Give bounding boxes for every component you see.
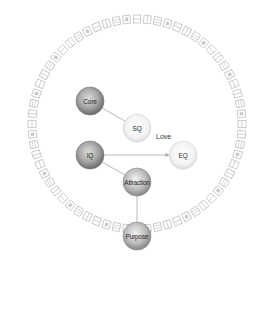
- ring-glyph: [198, 200, 209, 211]
- ring-glyph: [190, 206, 200, 217]
- ring-glyph: [213, 52, 224, 63]
- edge-iq-attraction: [102, 162, 125, 175]
- ring-glyph: [39, 69, 49, 79]
- ring-glyph: [198, 37, 209, 48]
- ring-glyph: [32, 150, 42, 159]
- diagram-canvas: Love CoreSQIQEQAttractionPurpose: [0, 0, 263, 323]
- node-label: SQ: [133, 125, 142, 133]
- ring-glyph: [112, 222, 121, 231]
- ring-glyph: [50, 185, 61, 196]
- node-iq[interactable]: IQ: [76, 141, 104, 170]
- ring-glyph: [92, 22, 102, 32]
- node-label: IQ: [87, 152, 94, 160]
- ring-glyph: [35, 79, 45, 89]
- ring-glyph: [102, 19, 111, 29]
- ring-glyph: [181, 211, 191, 221]
- ring-glyph: [28, 130, 37, 138]
- ring-glyph: [143, 15, 151, 24]
- ring-glyph: [233, 89, 243, 98]
- ring-glyph: [163, 220, 172, 230]
- ring-glyph: [57, 44, 68, 55]
- node-purpose[interactable]: Purpose: [123, 222, 151, 251]
- ring-glyph: [229, 79, 239, 89]
- ring-glyph: [163, 19, 172, 29]
- node-attraction[interactable]: Attraction: [123, 168, 151, 197]
- ring-glyph: [82, 211, 92, 221]
- ring-glyph: [44, 60, 55, 70]
- ring-glyph: [35, 159, 45, 169]
- ring-glyph: [235, 99, 244, 108]
- ring-glyph: [190, 31, 200, 42]
- ring-glyph: [172, 22, 182, 32]
- ring-glyph: [213, 185, 224, 196]
- ring-glyph: [181, 26, 191, 36]
- ring-glyph: [65, 37, 76, 48]
- ring-glyph: [219, 177, 230, 187]
- ring-glyph: [224, 69, 234, 79]
- ring-glyph: [32, 89, 42, 98]
- ring-glyph: [112, 16, 121, 25]
- ring-glyph: [206, 44, 217, 55]
- ring-glyph: [238, 120, 246, 127]
- ring-glyph: [237, 110, 246, 118]
- ring-glyph: [172, 216, 182, 226]
- edge-core-sq: [102, 108, 125, 121]
- concept-diagram: Love CoreSQIQEQAttractionPurpose: [0, 0, 263, 323]
- ring-glyph: [133, 15, 140, 23]
- ring-glyph: [28, 110, 37, 118]
- ring-glyph: [39, 168, 49, 178]
- ring-glyph: [73, 206, 83, 217]
- ring-glyph: [237, 130, 246, 138]
- ring-glyph: [50, 52, 61, 63]
- ring-glyph: [44, 177, 55, 187]
- ring-glyph: [229, 159, 239, 169]
- ring-glyph: [233, 150, 243, 159]
- node-eq[interactable]: EQ: [169, 141, 197, 170]
- ring-glyph: [235, 140, 244, 149]
- ring-glyph: [29, 99, 38, 108]
- ring-glyph: [57, 193, 68, 204]
- ring-glyph: [73, 31, 83, 42]
- ring-glyph: [92, 216, 102, 226]
- nodes: CoreSQIQEQAttractionPurpose: [76, 87, 197, 251]
- ring-glyph: [153, 222, 162, 231]
- node-core[interactable]: Core: [76, 87, 104, 116]
- ring-glyph: [29, 140, 38, 149]
- ring-glyph: [102, 220, 111, 230]
- ring-glyph: [28, 120, 36, 127]
- node-label: Attraction: [124, 179, 150, 186]
- node-label: Core: [83, 98, 97, 105]
- node-label: Purpose: [126, 233, 149, 241]
- ring-glyph: [219, 60, 230, 70]
- ring-glyph: [123, 15, 131, 24]
- node-label: EQ: [179, 152, 188, 160]
- ring-glyph: [153, 16, 162, 25]
- edge-label-love: Love: [156, 133, 171, 140]
- ring-glyph: [82, 26, 92, 36]
- ring-glyph: [206, 193, 217, 204]
- ring-glyph: [224, 168, 234, 178]
- node-sq[interactable]: SQ: [123, 114, 151, 143]
- ring-glyph: [65, 200, 76, 211]
- edge-labels: Love: [156, 133, 171, 140]
